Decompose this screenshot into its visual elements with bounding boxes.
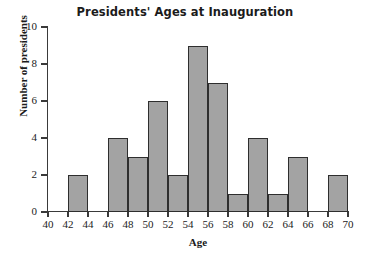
histogram-bar xyxy=(268,194,288,213)
x-tick-mark xyxy=(347,212,348,217)
y-tick-label: 0 xyxy=(0,206,37,217)
histogram-bar xyxy=(208,83,228,213)
x-tick-mark xyxy=(307,212,308,217)
y-tick-mark xyxy=(41,26,47,27)
histogram-bar xyxy=(168,175,188,212)
y-tick-mark xyxy=(41,211,47,212)
histogram-bar xyxy=(288,157,308,213)
x-tick-mark xyxy=(87,212,88,217)
histogram-bar xyxy=(248,138,268,212)
y-tick-mark xyxy=(41,100,47,101)
y-tick-label: 2 xyxy=(0,169,37,180)
x-tick-label: 70 xyxy=(336,218,360,230)
x-tick-mark xyxy=(247,212,248,217)
histogram-bar xyxy=(68,175,88,212)
y-tick-label: 10 xyxy=(0,21,37,32)
x-tick-mark xyxy=(167,212,168,217)
histogram-figure: Presidents' Ages at Inauguration Number … xyxy=(0,0,370,258)
y-tick-label: 6 xyxy=(0,95,37,106)
x-tick-mark xyxy=(47,212,48,217)
y-tick-label: 4 xyxy=(0,132,37,143)
histogram-bar xyxy=(148,101,168,212)
y-tick-mark xyxy=(41,63,47,64)
histogram-bar xyxy=(128,157,148,213)
x-tick-mark xyxy=(187,212,188,217)
page-title: Presidents' Ages at Inauguration xyxy=(0,5,370,19)
histogram-bar xyxy=(328,175,348,212)
y-tick-mark xyxy=(41,137,47,138)
histogram-bar xyxy=(228,194,248,213)
x-tick-mark xyxy=(227,212,228,217)
histogram-bar xyxy=(108,138,128,212)
y-tick-mark xyxy=(41,174,47,175)
x-axis-label: Age xyxy=(48,236,348,248)
x-tick-mark xyxy=(267,212,268,217)
x-tick-mark xyxy=(287,212,288,217)
x-tick-mark xyxy=(127,212,128,217)
x-tick-mark xyxy=(207,212,208,217)
y-tick-label: 8 xyxy=(0,58,37,69)
x-tick-mark xyxy=(327,212,328,217)
x-tick-mark xyxy=(147,212,148,217)
x-tick-mark xyxy=(107,212,108,217)
x-tick-mark xyxy=(67,212,68,217)
histogram-bar xyxy=(188,46,208,213)
